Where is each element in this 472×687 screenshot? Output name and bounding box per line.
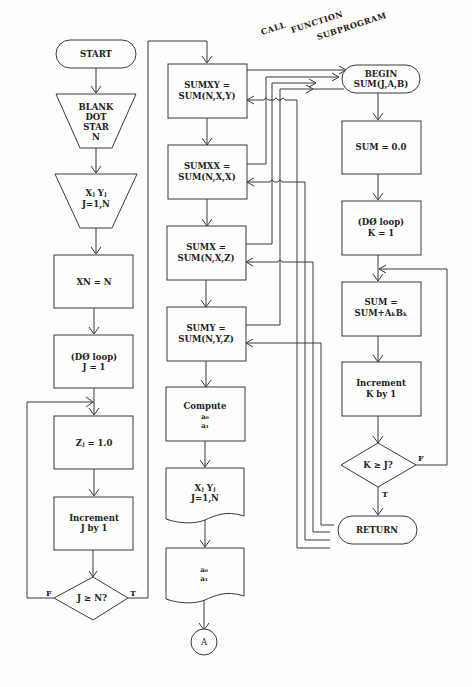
text-line: SUM(N,X,Y): [179, 91, 236, 102]
text-line: XN = N: [76, 277, 111, 287]
text-line: DOT: [85, 112, 107, 122]
start-label: START: [80, 49, 113, 59]
call-line-sumy: [246, 89, 344, 325]
return-line-sumy-v: [321, 343, 334, 525]
text-line: SUM(N,X,Z): [178, 253, 235, 264]
text-line: SUMX =: [186, 242, 226, 252]
start-terminal: START: [56, 40, 136, 68]
return-line-sumxx: [247, 180, 305, 182]
do-loop-j-process: (DØ loop) J = 1: [54, 335, 133, 388]
text-line: J = 1: [82, 362, 106, 372]
text-line: SUM(N,X,X): [178, 172, 235, 183]
return-terminal: RETURN: [338, 516, 417, 544]
text-line: CALL: [260, 19, 288, 36]
text-line: Increment: [69, 513, 119, 523]
increment-k-process: Increment K by 1: [342, 362, 421, 416]
text-line: J=1,N: [190, 493, 219, 504]
sumxy-process: SUMXY = SUM(N,X,Y): [168, 64, 247, 118]
text-line: Xⱼ Yⱼ: [86, 188, 107, 198]
text-line: SUM(J,A,B): [354, 79, 408, 90]
true-label: T: [130, 588, 136, 598]
connector-label: A: [200, 637, 208, 647]
return-line-sumxx-v: [305, 182, 330, 540]
print-a-document: a₀ a₁: [166, 548, 244, 603]
text-line: J by 1: [80, 523, 108, 533]
text-line: (DØ loop): [358, 217, 404, 227]
text-line: STAR: [83, 122, 110, 132]
read-xy-input: Xⱼ Yⱼ J=1,N: [55, 174, 137, 228]
sumx-process: SUMX = SUM(N,X,Z): [167, 226, 246, 280]
print-xy-document: Xⱼ Yⱼ J=1,N: [166, 468, 244, 523]
zj-process: Zⱼ = 1.0: [54, 416, 133, 469]
false-label: F: [46, 588, 52, 598]
text-line: N: [92, 132, 100, 142]
text-line: K ≥ J?: [363, 460, 392, 470]
text-line: J ≥ N?: [76, 593, 107, 603]
xn-process: XN = N: [54, 255, 133, 308]
text-line: SUMXX =: [184, 161, 230, 171]
flowchart: START BLANK DOT STAR N Xⱼ Yⱼ J=1,N XN = …: [0, 0, 472, 687]
call-function-label: CALL FUNCTION SUBPROGRAM: [260, 9, 388, 42]
decision-j: J ≥ N? F T: [46, 577, 136, 620]
text-line: SUM+AₖBₖ: [355, 308, 408, 318]
text-line: a₀: [201, 412, 209, 421]
text-line: SUMXY =: [184, 80, 230, 90]
text-line: BLANK: [79, 102, 115, 112]
text-line: SUM(N,Y,Z): [178, 334, 233, 345]
begin-terminal: BEGIN SUM(J,A,B): [342, 65, 420, 93]
text-line: SUMY =: [186, 323, 225, 333]
text-line: (DØ loop): [71, 352, 117, 362]
true-label: T: [382, 489, 388, 499]
text-line: J=1,N: [81, 199, 110, 210]
text-line: Zⱼ = 1.0: [76, 438, 113, 448]
accumulate-process: SUM = SUM+AₖBₖ: [342, 282, 421, 336]
text-line: Increment: [356, 378, 406, 388]
false-label: F: [418, 453, 424, 463]
text-line: BEGIN: [365, 69, 398, 79]
text-line: K = 1: [368, 228, 394, 238]
text-line: a₀: [200, 565, 208, 574]
text-line: RETURN: [356, 525, 398, 535]
text-line: Xⱼ Yⱼ: [195, 483, 216, 493]
text-line: a₁: [201, 421, 209, 430]
text-line: Compute: [184, 401, 227, 411]
text-line: SUM =: [364, 297, 397, 307]
blank-dot-star-input: BLANK DOT STAR N: [56, 94, 136, 148]
text-line: a₁: [200, 574, 208, 583]
sumy-process: SUMY = SUM(N,Y,Z): [167, 307, 246, 361]
text-line: K by 1: [366, 389, 396, 399]
sumxx-process: SUMXX = SUM(N,X,X): [168, 145, 247, 199]
connector-a: A: [191, 629, 217, 655]
do-loop-k-process: (DØ loop) K = 1: [342, 201, 421, 255]
call-line-sumxx: [247, 77, 339, 164]
increment-j-process: Increment J by 1: [54, 497, 133, 550]
init-sum-process: SUM = 0.0: [342, 121, 421, 174]
compute-process: Compute a₀ a₁: [166, 387, 245, 441]
decision-k: K ≥ J? F T: [341, 443, 424, 499]
text-line: SUM = 0.0: [356, 142, 407, 152]
